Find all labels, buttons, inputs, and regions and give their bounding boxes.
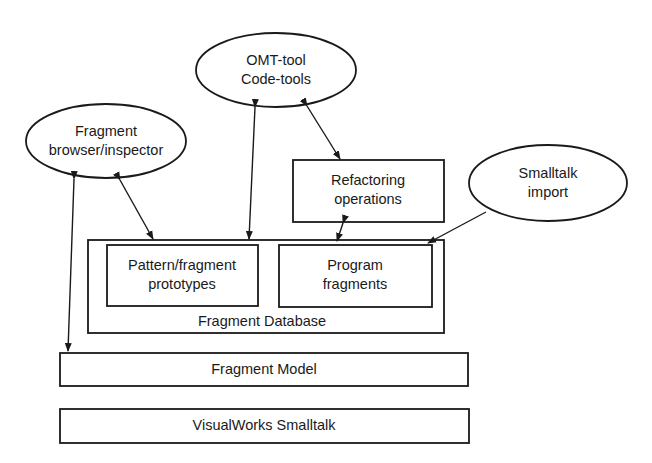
- edge-browser-to-model: [68, 179, 74, 351]
- fragment-model-label: Fragment Model: [211, 360, 317, 379]
- program-fragments-line2: fragments: [323, 275, 387, 294]
- fragment-browser-label: Fragment browser/inspector: [49, 122, 163, 160]
- refactoring-line2: operations: [331, 190, 405, 209]
- fragment-browser-line1: Fragment: [49, 122, 163, 141]
- smalltalk-import-label: Smalltalk import: [519, 164, 578, 202]
- refactoring-label: Refactoring operations: [331, 171, 405, 209]
- edge-omt-to-database: [249, 107, 255, 239]
- edge-refactoring-to-database: [337, 223, 343, 241]
- edge-browser-to-database: [120, 180, 153, 239]
- omt-tool-line2: Code-tools: [241, 70, 311, 89]
- fragment-database-label: Fragment Database: [198, 312, 326, 331]
- smalltalk-import-line2: import: [519, 183, 578, 202]
- fragment-browser-line2: browser/inspector: [49, 141, 163, 160]
- program-fragments-label: Program fragments: [323, 256, 387, 294]
- smalltalk-import-line1: Smalltalk: [519, 164, 578, 183]
- pattern-prototypes-label: Pattern/fragment prototypes: [128, 256, 236, 294]
- omt-tool-line1: OMT-tool: [241, 51, 311, 70]
- visualworks-label: VisualWorks Smalltalk: [193, 416, 336, 435]
- program-fragments-line1: Program: [323, 256, 387, 275]
- pattern-prototypes-line1: Pattern/fragment: [128, 256, 236, 275]
- refactoring-line1: Refactoring: [331, 171, 405, 190]
- omt-tool-label: OMT-tool Code-tools: [241, 51, 311, 89]
- pattern-prototypes-line2: prototypes: [128, 275, 236, 294]
- architecture-diagram: [0, 0, 652, 463]
- edge-omt-to-refactoring: [307, 106, 340, 159]
